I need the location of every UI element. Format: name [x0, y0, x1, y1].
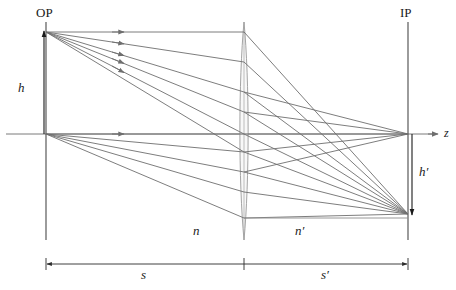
ray-in-axis-3 [46, 134, 244, 172]
ray-arrow-3 [112, 52, 124, 56]
ray-out-top-6 [244, 152, 408, 214]
outgoing-rays-to-axis-image [244, 92, 408, 172]
diagram-canvas [0, 0, 456, 290]
object-height-label: h [18, 81, 25, 94]
ray-out-top-9 [244, 214, 408, 218]
ray-direction-arrowheads [112, 32, 124, 134]
object-plane-label: OP [36, 6, 53, 19]
ray-out-top-5 [244, 134, 408, 214]
ray-arrow-5 [112, 66, 124, 73]
ray-out-top-7 [244, 172, 408, 214]
ray-out-axis-4 [244, 134, 408, 152]
lens-element [240, 22, 248, 240]
outgoing-rays-to-image-point [244, 32, 408, 218]
optics-ray-diagram: OP IP h h′ n n′ s s′ z [0, 0, 456, 290]
object-space-index-label: n [193, 224, 200, 237]
image-plane-label: IP [400, 6, 412, 19]
image-height-label: h′ [419, 165, 428, 178]
object-distance-label: s [141, 268, 146, 281]
ray-in-axis-5 [46, 134, 244, 218]
image-distance-label: s′ [321, 268, 329, 281]
ray-arrow-2 [112, 42, 124, 44]
ray-out-axis-5 [244, 134, 408, 172]
image-space-index-label: n′ [295, 224, 304, 237]
ray-out-top-2 [244, 62, 408, 214]
ray-arrow-4 [112, 59, 124, 64]
optical-axis-label: z [444, 127, 449, 139]
ray-in-top-4 [46, 32, 244, 112]
incoming-rays-from-axis-point [46, 134, 244, 218]
ray-out-axis-2 [244, 112, 408, 134]
